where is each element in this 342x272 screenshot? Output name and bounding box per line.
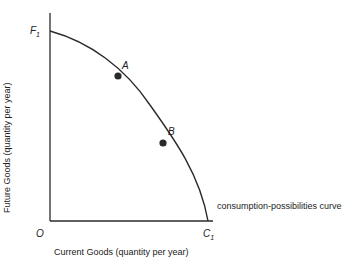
origin-label: O — [36, 228, 44, 239]
y-intercept-label: F1 — [30, 25, 40, 38]
point-b-label: B — [168, 126, 175, 137]
curve-label: consumption-possibilities curve — [217, 201, 342, 211]
x-intercept-sub: 1 — [210, 234, 214, 241]
y-intercept-sub: 1 — [36, 31, 40, 38]
consumption-possibilities-curve — [50, 31, 208, 221]
point-b — [159, 139, 166, 146]
point-a-label: A — [122, 60, 129, 71]
point-a — [114, 72, 121, 79]
x-intercept-label: C1 — [203, 228, 214, 241]
x-axis-label: Current Goods (quantity per year) — [54, 247, 189, 257]
y-axis-label: Future Goods (quantity per year) — [2, 82, 12, 213]
